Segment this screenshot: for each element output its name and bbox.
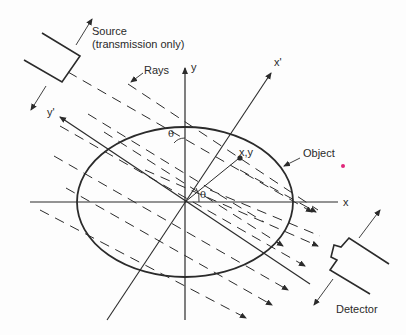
detector-motion-up <box>359 210 380 238</box>
tomography-geometry-diagram: Source (transmission only) Rays y x x' y… <box>0 0 406 335</box>
detector-label: Detector <box>336 303 378 315</box>
source-motion-down <box>31 86 46 110</box>
theta-arc-top <box>174 138 185 143</box>
source-housing <box>24 33 80 82</box>
source-label: Source <box>92 25 127 37</box>
x-axis-label: x <box>343 196 349 208</box>
x-prime-label: x' <box>274 56 282 68</box>
rays-label: Rays <box>144 64 169 76</box>
object-label: Object <box>303 147 335 159</box>
detector-motion-down <box>314 279 333 305</box>
theta-top-label: θ <box>168 128 174 140</box>
diagram-graphics <box>0 0 406 335</box>
rays <box>40 72 320 318</box>
theta-arc-origin <box>196 188 199 202</box>
detector-housing <box>330 238 389 294</box>
stray-mark <box>341 164 345 168</box>
source-motion-up <box>76 19 92 45</box>
x-prime-axis <box>107 73 271 320</box>
y-prime-label: y' <box>47 106 55 118</box>
rays-pointer <box>131 73 143 82</box>
object-pointer <box>284 158 300 166</box>
theta-origin-label: θ <box>200 189 206 201</box>
point-label: x,y <box>239 146 253 158</box>
source-note-label: (transmission only) <box>92 38 184 50</box>
y-axis-label: y <box>191 61 197 73</box>
